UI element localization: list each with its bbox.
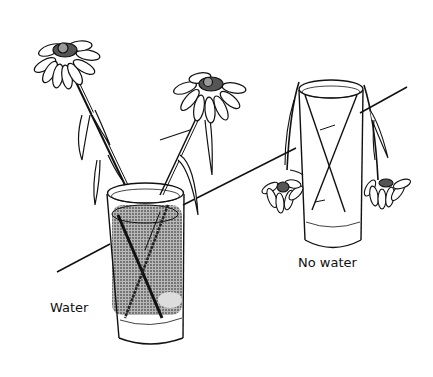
label-no-water: No water [298,255,357,270]
glass-with-water [107,183,185,344]
flower-wilted-left [260,82,305,213]
glass-without-water [299,80,363,248]
flower-wilted-right [362,85,412,209]
diagram-illustration [0,0,433,377]
flower-upright-left [32,40,128,205]
label-water: Water [50,300,88,315]
flower-upright-right [160,71,247,215]
table-edge-line [57,87,407,272]
